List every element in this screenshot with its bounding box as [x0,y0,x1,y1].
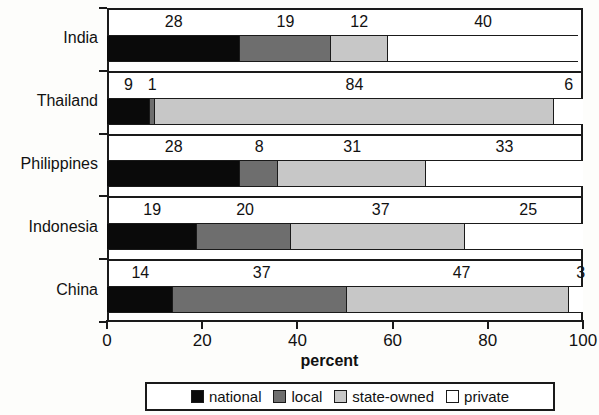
bar-row-china [0,259,599,322]
bar-segment-private [426,160,583,187]
x-axis-tick-label: 60 [383,331,402,351]
bar-row-india [0,8,599,71]
legend-swatch-icon [334,390,347,403]
x-axis-tick-label: 100 [569,331,597,351]
bar-row-philippines [0,134,599,197]
bar-segment-private [465,223,583,250]
stacked-bar [107,35,583,62]
bar-segment-local [240,160,278,187]
legend-item-local[interactable]: local [273,388,322,405]
bar-segment-private [554,98,583,125]
bar-segment-state-owned [155,98,555,125]
legend-swatch-icon [273,390,286,403]
bar-segment-national [107,98,150,125]
x-axis-tick-label: 40 [288,331,307,351]
bar-segment-local [240,35,330,62]
x-axis-tick [582,320,584,329]
x-axis-tick [487,320,489,329]
bar-segment-state-owned [331,35,388,62]
bar-segment-local [173,286,347,313]
x-axis-tick [392,320,394,329]
x-axis-title-text: percent [301,352,359,370]
stacked-bar [107,223,583,250]
x-axis-tick-label: 0 [102,331,111,351]
x-axis-tick [201,320,203,329]
legend-item-national[interactable]: national [191,388,262,405]
bar-row-indonesia [0,196,599,259]
legend-label: state-owned [352,388,434,405]
bar-segment-state-owned [278,160,426,187]
legend-label: national [209,388,262,405]
stacked-bar [107,98,583,125]
bar-segment-national [107,223,197,250]
bar-row-thailand [0,71,599,134]
stacked-bar [107,160,583,187]
legend-label: local [291,388,322,405]
legend-item-stateowned[interactable]: state-owned [334,388,434,405]
bar-segment-private [388,35,578,62]
x-axis-tick-label: 80 [478,331,497,351]
bar-segment-national [107,160,240,187]
bar-segment-state-owned [347,286,569,313]
x-axis-tick [106,320,108,329]
x-axis-tick-label: 20 [193,331,212,351]
bar-segment-state-owned [291,223,465,250]
stacked-bar [107,286,583,313]
chart-root: IndiaThailandPhilippinesIndonesiaChina 2… [0,0,599,415]
x-axis-tick [296,320,298,329]
legend-swatch-icon [446,390,459,403]
x-axis-line [107,320,583,322]
x-axis-title: percent [0,352,599,370]
legend-swatch-icon [191,390,204,403]
bar-segment-national [107,35,240,62]
bar-segment-private [569,286,583,313]
legend-item-private[interactable]: private [446,388,509,405]
chart-legend: nationallocalstate-ownedprivate [145,382,555,411]
bar-segment-local [197,223,291,250]
legend-label: private [464,388,509,405]
bar-segment-national [107,286,173,313]
